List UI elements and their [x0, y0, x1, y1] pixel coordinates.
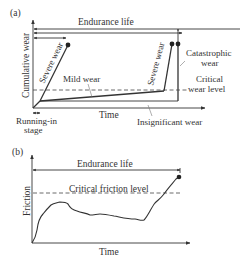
critical-label-2: wear level: [188, 84, 226, 94]
catastrophic-label-2: wear: [201, 58, 219, 68]
mild-wear-label: Mild wear: [63, 74, 100, 84]
running-in-label-2: stage: [24, 125, 43, 135]
catastrophic-leader: [180, 61, 185, 66]
endurance-life-label: Endurance life: [78, 17, 134, 27]
catastrophic-label-1: Catastrophic: [186, 48, 232, 58]
panel-b-label: (b): [12, 147, 23, 158]
panel-a-label: (a): [10, 8, 21, 19]
insignificant-leader: [148, 105, 152, 116]
catastrophic-point: [176, 42, 181, 47]
friction-end-point: [177, 175, 182, 180]
wear-friction-diagram: (a) Cumulative wear Time Endurance life: [0, 0, 249, 269]
running-in-curve: [33, 101, 40, 108]
severe-wear-2-label: Severe wear: [145, 41, 166, 86]
x-axis-label: Time: [99, 247, 119, 257]
severe-wear-2-line: [164, 44, 172, 91]
y-axis-label: Friction: [22, 186, 32, 216]
severe-wear-2-point: [170, 42, 175, 47]
severe-wear-1-point: [66, 43, 71, 48]
panel-b: (b) Friction Time Endurance life Critica…: [12, 147, 190, 257]
mild-wear-leader: [88, 84, 92, 97]
x-axis-label: Time: [99, 110, 119, 120]
panel-a: (a) Cumulative wear Time Endurance life: [10, 8, 240, 135]
y-axis-label: Cumulative wear: [21, 32, 31, 98]
mild-wear-line: [40, 91, 164, 101]
endurance-life-label: Endurance life: [77, 159, 133, 169]
critical-friction-label: Critical friction level: [69, 184, 149, 194]
insignificant-wear-label: Insignificant wear: [137, 117, 202, 127]
critical-label-1: Critical: [196, 74, 223, 84]
